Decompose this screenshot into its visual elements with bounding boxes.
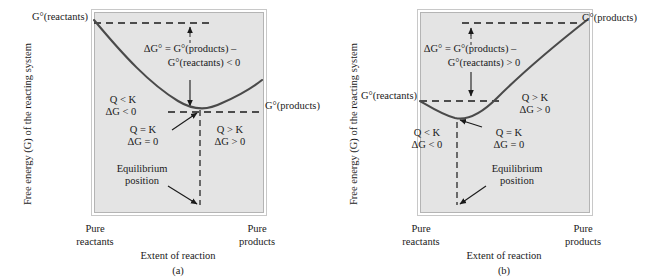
x-left-label-line1-b: Pure	[386, 223, 456, 235]
q-less-k-label-a: Q < K	[95, 94, 151, 106]
x-left-label-line2-b: reactants	[386, 236, 456, 248]
delta-g-negative-label-a: ΔG < 0	[93, 106, 149, 118]
x-left-label-line1-a: Pure	[60, 223, 130, 235]
delta-g-zero-label-a: ΔG = 0	[117, 136, 169, 148]
x-axis-title-a: Extent of reaction	[108, 250, 248, 261]
q-equals-k-leader-b	[460, 120, 482, 127]
products-level-label-a: G°(products)	[265, 100, 320, 112]
delta-g-positive-label-b: ΔG > 0	[507, 104, 563, 116]
q-equals-k-label-a: Q = K	[117, 124, 169, 136]
delta-g-standard-line1-a: ΔG° = G°(products) –	[120, 43, 260, 55]
panel-letter-a: (a)	[138, 265, 218, 276]
q-greater-k-label-a: Q > K	[204, 124, 256, 136]
delta-g-negative-label-b: ΔG < 0	[401, 139, 453, 151]
equilibrium-label-line1-a: Equilibrium	[106, 163, 178, 175]
equilibrium-leader-a	[168, 186, 197, 204]
panel-letter-b: (b)	[464, 265, 544, 276]
products-level-label-b: G°(products)	[582, 12, 637, 24]
equilibrium-label-line2-a: position	[106, 175, 178, 187]
x-right-label-line2-a: products	[222, 236, 292, 248]
delta-g-zero-label-b: ΔG = 0	[483, 139, 535, 151]
q-less-k-label-b: Q < K	[401, 127, 453, 139]
equilibrium-label-line2-b: position	[481, 175, 553, 187]
delta-g-standard-line2-a: G°(reactants) < 0	[134, 57, 274, 69]
x-left-label-line2-a: reactants	[60, 236, 130, 248]
panel-a: Free energy (G) of the reacting system	[0, 0, 331, 279]
delta-g-positive-label-a: ΔG > 0	[204, 136, 256, 148]
q-equals-k-leader-a	[172, 113, 197, 130]
delta-g-standard-line1-b: ΔG° = G°(products) –	[399, 43, 541, 55]
x-right-label-line1-a: Pure	[222, 223, 292, 235]
x-axis-title-b: Extent of reaction	[434, 250, 574, 261]
panel-b: Free energy (G) of the reacting system	[331, 0, 662, 279]
reactants-level-label-a: G°(reactants)	[4, 11, 88, 23]
reactants-level-label-b: G°(reactants)	[331, 90, 417, 102]
x-right-label-line1-b: Pure	[548, 223, 618, 235]
q-equals-k-label-b: Q = K	[483, 127, 535, 139]
equilibrium-leader-b	[460, 186, 486, 204]
free-energy-figure: Free energy (G) of the reacting system	[0, 0, 662, 279]
equilibrium-label-line1-b: Equilibrium	[481, 163, 553, 175]
q-greater-k-label-b: Q > K	[507, 92, 563, 104]
delta-g-standard-line2-b: G°(reactants) > 0	[413, 57, 555, 69]
x-right-label-line2-b: products	[548, 236, 618, 248]
